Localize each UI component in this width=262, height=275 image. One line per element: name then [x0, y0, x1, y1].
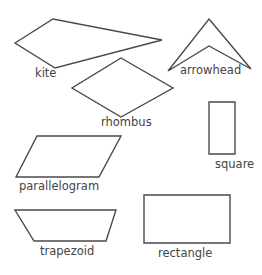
square-label: square [215, 159, 254, 171]
rhombus-shape [72, 58, 173, 117]
trapezoid-shape [15, 210, 116, 241]
rectangle-label: rectangle [158, 248, 212, 260]
parallelogram-label: parallelogram [19, 181, 99, 193]
kite-shape [15, 19, 162, 68]
rectangle-shape [144, 195, 230, 243]
square-shape [209, 102, 235, 154]
trapezoid-label: trapezoid [40, 246, 94, 258]
shapes-diagram: kite arrowhead rhombus parallelogram squ… [0, 0, 262, 275]
kite-label: kite [35, 68, 56, 80]
shapes-svg [0, 0, 262, 275]
parallelogram-shape [16, 136, 121, 177]
rhombus-label: rhombus [101, 117, 152, 129]
arrowhead-label: arrowhead [180, 65, 241, 77]
